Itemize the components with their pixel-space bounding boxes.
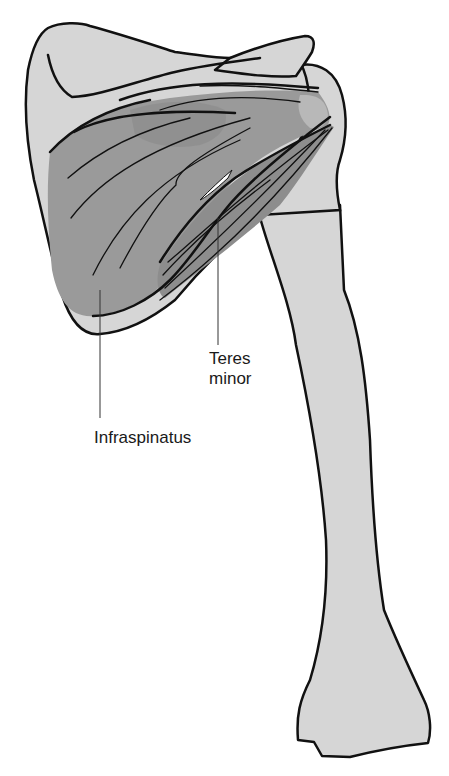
label-teres-minor-line2: minor: [209, 369, 252, 389]
acromion: [215, 36, 314, 77]
humerus: [258, 205, 430, 757]
label-teres-minor-line1: Teres: [209, 349, 252, 369]
label-teres-minor: Teres minor: [209, 349, 252, 389]
label-infraspinatus: Infraspinatus: [94, 428, 191, 448]
